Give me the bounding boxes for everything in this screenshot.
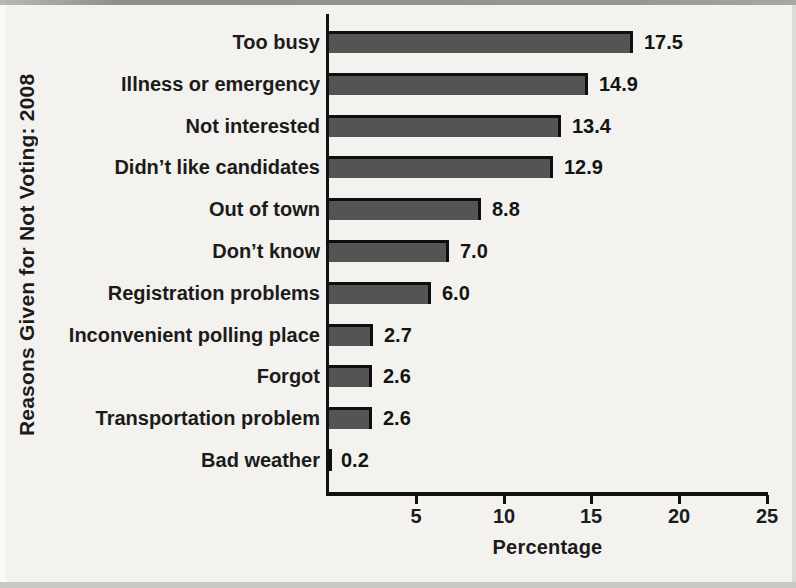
value-label: 17.5 [644,31,683,53]
category-label: Not interested [186,115,320,137]
bar [329,198,481,220]
category-label: Too busy [233,31,320,53]
category-label: Illness or emergency [121,73,320,95]
bar [329,156,553,178]
bar-row: Illness or emergency14.9 [0,73,796,95]
value-label: 0.2 [341,449,369,471]
value-label: 12.9 [564,156,603,178]
x-axis-line [326,492,768,496]
bar-row: Out of town8.8 [0,198,796,220]
value-label: 13.4 [572,115,611,137]
value-label: 2.7 [384,324,412,346]
bar [329,115,561,137]
x-tick-label: 10 [474,505,534,528]
bar-row: Bad weather0.2 [0,449,796,471]
bar [329,282,431,304]
bar-row: Transportation problem2.6 [0,407,796,429]
bar [329,73,588,95]
bar [329,240,449,262]
x-tick-label: 5 [386,505,446,528]
value-label: 6.0 [442,282,470,304]
value-label: 7.0 [460,240,488,262]
bar [329,31,633,53]
category-label: Out of town [209,198,320,220]
value-label: 8.8 [492,198,520,220]
bar-row: Too busy17.5 [0,31,796,53]
scan-edge-bottom [0,582,796,588]
bar-row: Not interested13.4 [0,115,796,137]
value-label: 2.6 [383,365,411,387]
value-label: 2.6 [383,407,411,429]
bar-row: Registration problems6.0 [0,282,796,304]
bar [329,365,372,387]
bar-row: Didn’t like candidates12.9 [0,156,796,178]
x-axis-title: Percentage [327,536,768,559]
x-tick-label: 20 [649,505,709,528]
category-label: Forgot [257,365,320,387]
bar-row: Forgot2.6 [0,365,796,387]
x-tick-mark [415,495,418,504]
bar-chart: Reasons Given for Not Voting: 2008 Too b… [0,0,796,588]
bar-row: Inconvenient polling place2.7 [0,324,796,346]
value-label: 14.9 [599,73,638,95]
category-label: Transportation problem [96,407,320,429]
x-tick-mark [678,495,681,504]
x-tick-mark [503,495,506,504]
category-label: Inconvenient polling place [69,324,320,346]
category-label: Don’t know [212,240,320,262]
bar-row: Don’t know7.0 [0,240,796,262]
bar [329,324,373,346]
bar [329,449,332,471]
category-label: Registration problems [108,282,320,304]
x-tick-label: 15 [561,505,621,528]
x-tick-label: 25 [737,505,796,528]
x-tick-mark [590,495,593,504]
bar [329,407,372,429]
category-label: Bad weather [201,449,320,471]
category-label: Didn’t like candidates [114,156,320,178]
scanned-bar-chart-figure: Reasons Given for Not Voting: 2008 Too b… [0,0,796,588]
x-tick-mark [766,495,769,504]
